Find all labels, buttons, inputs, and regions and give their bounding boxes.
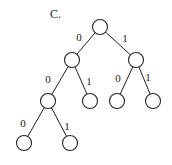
tree-edge: [75, 67, 87, 94]
binary-tree-diagram: C. 01010101: [0, 0, 172, 165]
tree-node: [17, 136, 32, 151]
tree-node: [41, 94, 56, 109]
edge-label: 1: [122, 32, 128, 44]
tree-edge: [28, 108, 45, 137]
edge-label: 1: [64, 120, 70, 132]
tree-node: [93, 20, 108, 35]
tree-node: [83, 94, 98, 109]
tree-node: [146, 94, 161, 109]
edge-label: 0: [76, 31, 82, 43]
tree-edge: [52, 66, 68, 94]
edge-labels-group: 01010101: [20, 31, 151, 132]
edge-label: 0: [115, 72, 121, 84]
tree-node: [63, 136, 78, 151]
tree-edge: [120, 67, 133, 94]
edge-label: 0: [20, 117, 26, 129]
diagram-title: C.: [50, 7, 61, 21]
edge-label: 1: [145, 71, 151, 83]
tree-node: [110, 94, 125, 109]
edge-label: 0: [45, 73, 51, 85]
tree-node: [65, 53, 80, 68]
edge-label: 1: [86, 75, 92, 87]
tree-node: [129, 53, 144, 68]
